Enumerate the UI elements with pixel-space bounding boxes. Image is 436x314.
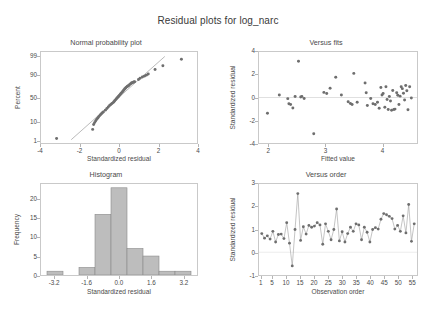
data-point bbox=[341, 230, 344, 233]
data-point bbox=[346, 232, 349, 235]
data-point bbox=[133, 80, 136, 83]
data-point bbox=[366, 231, 369, 234]
data-point bbox=[391, 217, 394, 220]
data-point bbox=[154, 68, 157, 71]
panel-title-versus-order: Versus order bbox=[222, 170, 430, 179]
xaxis-label-histogram: Standardized residual bbox=[40, 288, 198, 295]
tick-mark bbox=[37, 199, 40, 200]
data-point bbox=[330, 238, 333, 241]
data-point bbox=[413, 222, 416, 225]
data-point bbox=[294, 228, 297, 231]
data-point bbox=[334, 76, 337, 79]
data-point bbox=[352, 230, 355, 233]
histogram-bar bbox=[47, 271, 63, 275]
data-point bbox=[310, 226, 313, 229]
data-point bbox=[368, 241, 371, 244]
data-point bbox=[393, 228, 396, 231]
data-point bbox=[324, 222, 327, 225]
data-point bbox=[161, 64, 164, 67]
panel-versus-order: Versus order -10123 15101520253035404550… bbox=[222, 170, 430, 300]
xtick-label: 55 bbox=[398, 279, 426, 286]
tick-mark bbox=[255, 230, 258, 231]
xtick-label: 4 bbox=[184, 147, 212, 154]
histogram-bar bbox=[175, 271, 191, 275]
data-point bbox=[364, 81, 367, 84]
data-point bbox=[382, 92, 385, 95]
tick-mark bbox=[40, 144, 41, 147]
data-point bbox=[402, 214, 405, 217]
versus-order-canvas bbox=[259, 184, 417, 275]
tick-mark bbox=[255, 51, 258, 52]
panel-title-normal-probability-plot: Normal probability plot bbox=[6, 38, 206, 47]
data-point bbox=[403, 99, 406, 102]
data-point bbox=[376, 101, 379, 104]
ytick-label: -1 bbox=[233, 272, 255, 279]
tick-mark bbox=[255, 206, 258, 207]
data-point bbox=[402, 92, 405, 95]
data-point bbox=[388, 215, 391, 218]
data-point bbox=[408, 85, 411, 88]
data-point bbox=[343, 241, 346, 244]
yaxis-label-versus-order: Standardized residual bbox=[229, 183, 236, 276]
data-point bbox=[394, 108, 397, 111]
data-point bbox=[325, 92, 328, 95]
data-point bbox=[271, 230, 274, 233]
yaxis-label-versus-fits: Standardized residual bbox=[229, 51, 236, 144]
xtick-label: -4 bbox=[26, 147, 54, 154]
tick-mark bbox=[54, 276, 55, 279]
yaxis-label-normal-probability-plot: Percent bbox=[14, 51, 21, 144]
data-point bbox=[289, 103, 292, 106]
data-point bbox=[263, 237, 266, 240]
tick-mark bbox=[255, 74, 258, 75]
xaxis-label-normal-probability-plot: Standardized residual bbox=[40, 155, 198, 162]
data-point bbox=[322, 91, 325, 94]
plot-area-histogram bbox=[40, 183, 198, 276]
tick-mark bbox=[119, 276, 120, 279]
data-point bbox=[274, 241, 277, 244]
tick-mark bbox=[268, 144, 269, 147]
data-point bbox=[302, 225, 305, 228]
data-point bbox=[305, 233, 308, 236]
data-point bbox=[385, 213, 388, 216]
ytick-label: -4 bbox=[233, 140, 255, 147]
tick-mark bbox=[255, 144, 258, 145]
data-point bbox=[388, 95, 391, 98]
data-point bbox=[286, 97, 289, 100]
tick-mark bbox=[383, 144, 384, 147]
data-point bbox=[278, 94, 281, 97]
data-point bbox=[357, 224, 360, 227]
figure-title: Residual plots for log_narc bbox=[0, 15, 436, 26]
ytick-label: 2 bbox=[233, 70, 255, 77]
data-point bbox=[285, 221, 288, 224]
data-point bbox=[374, 103, 377, 106]
data-point bbox=[378, 107, 381, 110]
data-point bbox=[260, 232, 263, 235]
xtick-label: 2 bbox=[145, 147, 173, 154]
xtick-label: 2 bbox=[254, 147, 282, 154]
data-point bbox=[91, 128, 94, 131]
data-point bbox=[399, 95, 402, 98]
ytick-label: 2 bbox=[233, 202, 255, 209]
xtick-label: 4 bbox=[369, 147, 397, 154]
data-point bbox=[283, 237, 286, 240]
tick-mark bbox=[37, 218, 40, 219]
data-point bbox=[277, 233, 280, 236]
tick-mark bbox=[184, 276, 185, 279]
plot-area-versus-order bbox=[258, 183, 418, 276]
data-point bbox=[380, 218, 383, 221]
data-point bbox=[405, 89, 408, 92]
data-point bbox=[332, 228, 335, 231]
panel-normal-probability-plot: Normal probability plot 110509099 -4-202… bbox=[6, 38, 206, 160]
xtick-label: 3 bbox=[311, 147, 339, 154]
normal-probability-plot-canvas bbox=[41, 52, 197, 143]
data-point bbox=[365, 91, 368, 94]
tick-mark bbox=[255, 253, 258, 254]
ytick-label: 0 bbox=[233, 249, 255, 256]
data-point bbox=[369, 97, 372, 100]
ytick-label: 4 bbox=[233, 47, 255, 54]
data-point bbox=[363, 226, 366, 229]
tick-mark bbox=[37, 122, 40, 123]
data-point bbox=[355, 222, 358, 225]
ytick-label: 0 bbox=[233, 94, 255, 101]
residual-plots-figure: Residual plots for log_narc Normal proba… bbox=[0, 0, 436, 314]
